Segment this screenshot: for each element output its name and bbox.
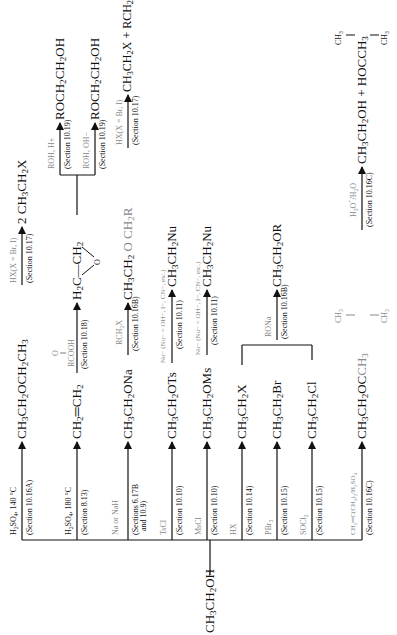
section-label: (Section 10.19) [99,120,107,169]
reagent-label: MsCl [195,517,203,535]
reagent-label: SOCl2 [300,514,308,535]
reagent-label: RCH2X [116,320,124,345]
reagent-label: RONa [265,317,273,337]
product-mesylate: CH3CH2OMs [200,368,213,439]
section-label: (Section 10.19) [64,120,72,169]
product-glycol-ether-base: ROCH2CH2OH [88,38,101,120]
methyl-bottom: CH3 [381,309,389,323]
section-label: (Section 10.16C) [366,480,374,535]
product-tbutyl-ether: CH3CH2OCCH3 [355,353,368,439]
section-label: (Section 10.16B) [132,296,140,351]
reagent-peroxyacid: O‖RCOOH [52,339,76,367]
section-label: (Section 10.10) [211,486,219,535]
section-label: (Section 10.15) [316,486,324,535]
reagent-label: TsCl [160,520,168,535]
section-label: (Section 10.14) [246,486,254,535]
reagent-label: ROH, H+ [48,138,56,169]
product-diethyl-ether: CH3CH2OCH2CH3 [15,339,28,439]
reagent-label: HX(X = Br, I) [10,237,18,283]
product-ether-from-halide: CH3CH2OR [270,224,283,287]
section-label: (Section 10.11) [176,300,184,349]
reagent-label: HX [230,523,238,535]
section-label: (Section 10.16A) [26,480,34,535]
section-label: (Section 10.11) [211,296,219,345]
product-deprotection: CH3CH2OH + HOCCH3 [355,36,368,164]
product-epoxide: H2C—CH2 [70,242,83,300]
reagent-label: PBr3 [265,520,273,535]
reagent-label: H2SO4, 140 °C [10,487,18,535]
reagent-label: H3O+/H2O [350,183,358,217]
section-label: (Section 10.10) [176,486,184,535]
product-alkyl-halide: CH3CH2X [235,384,248,439]
reagent-label: Na or NaH [112,500,120,535]
product-ethyl-bromide: CH3CH2Br [270,381,283,439]
product-substitution: CH3CH2Nu [165,226,178,287]
product-williamson-ether: CH3CH2 O CH2R [121,208,134,300]
reagent-label: CH2═C(CH3)2/H2SO4 [350,473,357,535]
section-label: (Section 8.13) [81,490,89,535]
methyl-top: CH3 [335,309,343,323]
product-ethene: CH2═CH2 [70,385,83,439]
reagent-label: HX(X = Br, I) [116,99,124,145]
product-ethyl-halide: 2 CH3CH2X [15,160,28,224]
section-label: (Section 10.18) [81,320,89,369]
product-sodium-ethoxide: CH3CH2ONa [121,369,134,439]
product-substitution: CH3CH2Nu [200,226,213,287]
epoxide-oxygen: O [94,259,102,265]
reagent-label: ROH, OH− [83,132,91,169]
product-glycol-ether-acid: ROCH2CH2OH [53,38,66,120]
methyl-bottom: CH3 [381,31,389,45]
section-label: (Section 10.15) [281,486,289,535]
section-label: (Section 10.17) [132,96,140,145]
section-label: (Section 10.16B) [281,284,289,339]
product-ethyl-chloride: CH3CH2Cl [305,381,318,439]
section-label: (Section 10.17) [26,234,34,283]
reaction-scheme: CH3CH2OH H2SO4, 140 °C (Section 10.16A) … [0,0,397,635]
section-label: (Section 10.16C) [366,172,374,227]
reagent-label: H2SO4, 180 °C [65,487,73,535]
section-label: (Sections 6.17B and 10.9) [132,484,148,535]
product-tosylate: CH3CH2OTs [165,372,178,439]
start-ethanol: CH3CH2OH [203,569,216,633]
product-cleavage: CH3CH2X + RCH2X [121,0,133,92]
methyl-top: CH3 [335,31,343,45]
